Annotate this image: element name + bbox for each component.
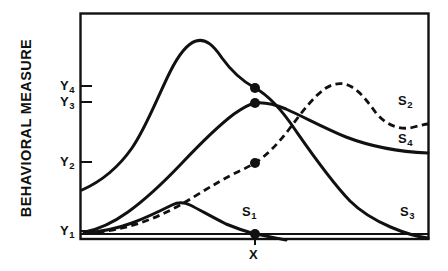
s3-subscript: 3 <box>409 210 414 221</box>
s1-subscript: 1 <box>251 210 256 221</box>
y-tick-label-y2: Y2 <box>52 154 74 169</box>
marker-s1-at-x <box>250 229 260 239</box>
x-tick-label-x: X <box>249 247 258 262</box>
y-axis-title: BEHAVIORAL MEASURE <box>18 28 34 228</box>
y3-subscript: 3 <box>69 100 74 111</box>
marker-s3-at-x <box>250 83 260 93</box>
y-tick-label-y3: Y3 <box>52 94 74 109</box>
s4-letter: S <box>398 131 407 146</box>
marker-s4-at-x <box>250 98 260 108</box>
y2-subscript: 2 <box>69 160 74 171</box>
y1-letter: Y <box>60 223 69 238</box>
y-tick-label-y1: Y1 <box>52 223 74 238</box>
s1-letter: S <box>242 204 251 219</box>
series-label-s4: S4 <box>398 131 412 146</box>
series-label-s2: S2 <box>398 93 412 108</box>
marker-s2-at-x <box>250 158 260 168</box>
series-label-s1: S1 <box>242 204 256 219</box>
series-label-s3: S3 <box>400 204 414 219</box>
y1-subscript: 1 <box>69 229 74 240</box>
s3-letter: S <box>400 204 409 219</box>
s2-subscript: 2 <box>407 99 412 110</box>
y2-letter: Y <box>60 154 69 169</box>
chart-figure: BEHAVIORAL MEASURE Y4 Y3 Y2 Y1 X S1 S2 S… <box>0 0 448 271</box>
y4-letter: Y <box>60 78 69 93</box>
y-axis-ticks <box>81 86 92 231</box>
y-tick-label-y4: Y4 <box>52 78 74 93</box>
s4-subscript: 4 <box>407 137 412 148</box>
y3-letter: Y <box>60 94 69 109</box>
s2-letter: S <box>398 93 407 108</box>
